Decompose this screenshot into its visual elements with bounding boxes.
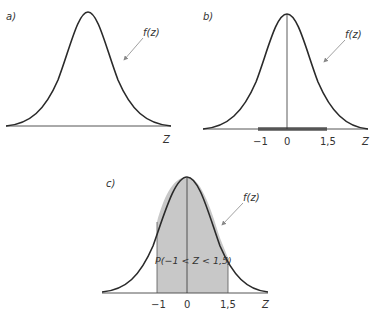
curve-pointer-arrow [124,38,143,60]
normal-distribution-diagram: a) f(z) Z b) f(z) −1 0 1,5 Z c) f(z) P(−… [0,0,371,312]
panel-a: a) f(z) Z [6,11,171,145]
curve-label: f(z) [143,27,160,38]
panel-b: b) f(z) −1 0 1,5 Z [203,11,370,147]
tick-minus-1: −1 [253,136,268,147]
axis-label: Z [261,299,270,310]
shaded-area [157,177,228,293]
tick-0: 0 [284,136,290,147]
curve-label: f(z) [243,192,260,203]
curve-pointer-arrow [222,203,243,225]
panel-a-label: a) [6,11,16,22]
curve-label: f(z) [345,29,362,40]
axis-label: Z [361,136,370,147]
tick-1-5: 1,5 [220,299,236,310]
axis-label: Z [162,134,171,145]
panel-b-label: b) [203,11,213,22]
panel-c: c) f(z) P(−1 < Z < 1,5) −1 0 1,5 Z [102,177,270,310]
tick-1-5: 1,5 [320,136,336,147]
tick-minus-1: −1 [151,299,166,310]
bell-curve [203,14,368,129]
tick-0: 0 [184,299,190,310]
probability-label: P(−1 < Z < 1,5) [155,255,232,266]
panel-c-label: c) [106,178,115,189]
curve-pointer-arrow [324,40,345,62]
